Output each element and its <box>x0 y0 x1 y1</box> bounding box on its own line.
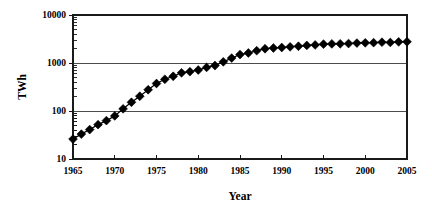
data-point-marker <box>327 39 336 48</box>
y-axis-title: TWh <box>16 74 28 100</box>
data-point-marker <box>211 61 220 70</box>
data-point-marker <box>286 42 295 51</box>
plot-frame <box>73 15 407 159</box>
data-point-marker <box>152 79 161 88</box>
x-tick-label: 1980 <box>189 166 208 176</box>
data-point-marker <box>378 38 387 47</box>
data-point-marker <box>177 68 186 77</box>
data-point-marker <box>269 44 278 53</box>
y-tick-label: 1000 <box>47 58 66 68</box>
y-tick-label: 10000 <box>42 10 66 20</box>
data-point-marker <box>227 54 236 63</box>
data-point-marker <box>394 37 403 46</box>
chart-figure: 10100100010000 1965197019751980198519901… <box>0 0 432 211</box>
data-point-marker <box>194 66 203 75</box>
x-tick-label: 1970 <box>105 166 124 176</box>
data-point-marker <box>202 63 211 72</box>
data-point-marker <box>311 41 320 50</box>
data-point-marker <box>386 38 395 47</box>
x-tick-label: 1990 <box>272 166 291 176</box>
plot-border <box>73 15 407 159</box>
x-tick-label: 2000 <box>356 166 375 176</box>
data-point-marker <box>186 67 195 76</box>
data-point-marker <box>102 116 111 125</box>
x-tick-label: 1975 <box>147 166 166 176</box>
x-tick-label: 1995 <box>314 166 333 176</box>
data-point-marker <box>94 120 103 129</box>
data-point-marker <box>85 125 94 134</box>
data-point-marker <box>261 44 270 53</box>
data-point-marker <box>77 130 86 139</box>
data-point-marker <box>219 57 228 66</box>
y-tick-label: 10 <box>57 154 67 164</box>
data-point-marker <box>353 39 362 48</box>
line-chart-canvas: 10100100010000 1965197019751980198519901… <box>0 0 432 211</box>
x-tick-label: 2005 <box>398 166 417 176</box>
data-point-marker <box>277 43 286 52</box>
data-point-marker <box>160 75 169 84</box>
data-point-marker <box>236 50 245 59</box>
data-point-marker <box>403 37 412 46</box>
gridlines <box>73 15 407 111</box>
data-point-marker <box>361 38 370 47</box>
data-point-marker <box>169 72 178 81</box>
data-point-marker <box>244 49 253 58</box>
x-tick-label: 1965 <box>64 166 83 176</box>
y-axis-tick-labels: 10100100010000 <box>42 10 66 164</box>
data-point-marker <box>336 39 345 48</box>
x-axis-tick-labels: 196519701975198019851990199520002005 <box>64 166 417 176</box>
data-point-marker <box>294 42 303 51</box>
data-point-marker <box>319 40 328 49</box>
data-point-marker <box>369 38 378 47</box>
data-point-marker <box>302 41 311 50</box>
x-axis-title: Year <box>229 190 252 202</box>
x-tick-label: 1985 <box>231 166 250 176</box>
x-axis-ticks <box>73 155 407 159</box>
data-series-twh <box>69 37 412 143</box>
y-tick-label: 100 <box>52 106 67 116</box>
data-point-marker <box>344 39 353 48</box>
data-point-marker <box>252 46 261 55</box>
